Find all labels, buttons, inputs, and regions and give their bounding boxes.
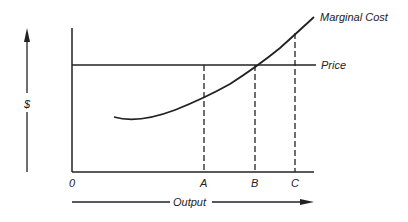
tick-b-label: B <box>251 177 258 189</box>
tick-c-label: C <box>291 177 299 189</box>
dashed-guides <box>204 33 295 172</box>
price-label: Price <box>321 59 346 71</box>
marginal-cost-diagram: $ Marginal Cost Price 0 A B C Output <box>0 0 408 222</box>
marginal-cost-label: Marginal Cost <box>320 11 389 23</box>
origin-label: 0 <box>69 177 76 189</box>
tick-a-label: A <box>199 177 207 189</box>
y-axis-label: $ <box>23 98 31 110</box>
marginal-cost-curve <box>114 17 314 119</box>
x-axis-label: Output <box>173 196 207 208</box>
